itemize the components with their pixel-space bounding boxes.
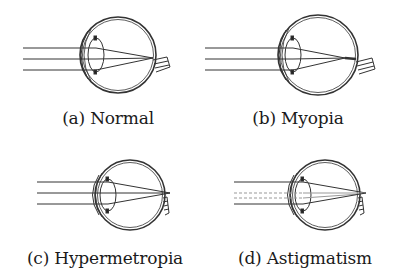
panel-astigmatism: (d) Astigmatism <box>0 140 397 280</box>
caption-myopia: (b) Myopia <box>252 108 343 128</box>
caption-astigmatism: (d) Astigmatism <box>238 248 372 268</box>
panel-myopia: (b) Myopia <box>0 0 397 140</box>
eye-diagram-myopia <box>0 0 397 110</box>
eye-diagram-astigmatism <box>0 140 397 250</box>
